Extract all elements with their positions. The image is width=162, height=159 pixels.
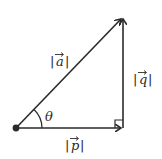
vector-triangle-diagram: θ | a | | q | | p | bbox=[0, 0, 162, 159]
origin-point bbox=[13, 125, 20, 132]
svg-text:|: | bbox=[65, 54, 69, 69]
svg-text:|: | bbox=[50, 54, 54, 69]
right-angle-marker bbox=[115, 120, 123, 128]
svg-text:|: | bbox=[65, 138, 69, 153]
svg-text:q: q bbox=[139, 72, 147, 87]
magnitude-p-label: | p | bbox=[65, 137, 84, 154]
angle-arc bbox=[34, 110, 42, 129]
magnitude-q-label: | q | bbox=[133, 71, 152, 88]
magnitude-a-label: | a | bbox=[50, 53, 69, 70]
angle-theta-label: θ bbox=[45, 109, 53, 124]
svg-text:p: p bbox=[71, 138, 80, 153]
svg-text:|: | bbox=[133, 72, 137, 87]
vector-a-line bbox=[16, 19, 121, 128]
svg-text:|: | bbox=[148, 72, 152, 87]
svg-text:|: | bbox=[80, 138, 84, 153]
svg-text:a: a bbox=[56, 54, 64, 69]
